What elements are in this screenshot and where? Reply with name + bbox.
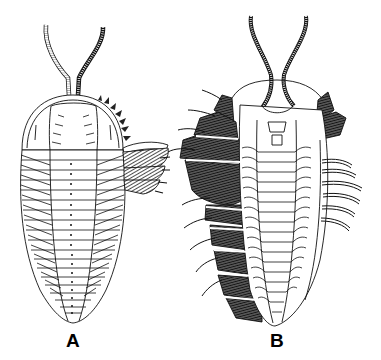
- antenna-icon: [251, 16, 307, 108]
- specimen-b: [168, 16, 362, 326]
- appendage-group-a: [123, 142, 170, 194]
- trunk: [21, 150, 125, 323]
- panel-label-a: A: [66, 331, 80, 350]
- specimen-a: [21, 25, 170, 323]
- ventral-body: [239, 105, 327, 326]
- illustration: [0, 0, 381, 360]
- panel-label-b: B: [270, 331, 284, 350]
- antenna-icon: [46, 25, 103, 95]
